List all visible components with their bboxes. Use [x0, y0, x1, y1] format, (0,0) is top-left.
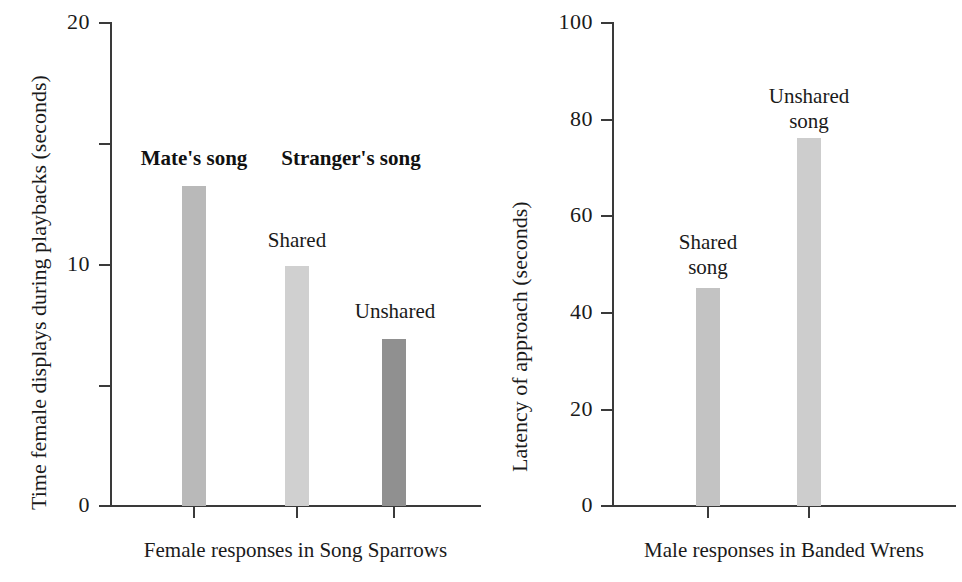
left-ytick-20	[99, 22, 110, 24]
left-bar-mates-song	[182, 186, 206, 506]
right-xtick-1	[707, 506, 709, 518]
right-ytick-0	[601, 505, 612, 507]
right-ytick-label-80: 80	[521, 108, 593, 130]
right-bar-label-unshared-song: Unshared song	[739, 84, 879, 134]
right-xtick-2	[808, 506, 810, 518]
right-ytick-label-100: 100	[521, 11, 593, 33]
right-ytick-label-0: 0	[521, 494, 593, 516]
right-bar-label-shared-song-line2: song	[648, 255, 768, 280]
left-bar-shared	[285, 266, 309, 506]
left-ytick-0	[99, 505, 110, 507]
left-ytick-15	[99, 143, 110, 145]
right-ytick-100	[601, 22, 612, 24]
left-group-label-mates-song: Mate's song	[114, 146, 274, 171]
left-bar-label-shared: Shared	[242, 228, 352, 253]
right-ytick-80	[601, 119, 612, 121]
figure-two-panel-bar-charts: 20 10 0 Time female displays during play…	[0, 0, 962, 582]
left-x-axis-title: Female responses in Song Sparrows	[110, 538, 481, 563]
right-bar-label-shared-song-line1: Shared	[648, 230, 768, 255]
right-y-axis-title: Latency of approach (seconds)	[507, 201, 533, 472]
right-y-axis-line	[612, 22, 614, 506]
panel-song-sparrows: 20 10 0 Time female displays during play…	[0, 0, 481, 582]
left-xtick-3	[393, 506, 395, 518]
left-group-label-strangers-song: Stranger's song	[261, 146, 441, 171]
left-ytick-label-20: 20	[30, 11, 90, 33]
left-bar-unshared	[382, 339, 406, 506]
left-y-axis-line	[110, 22, 112, 506]
right-x-axis-title: Male responses in Banded Wrens	[612, 538, 956, 563]
right-x-axis-line	[612, 505, 956, 507]
right-bar-label-unshared-song-line1: Unshared	[739, 84, 879, 109]
right-bar-unshared-song	[797, 138, 821, 506]
right-bar-label-unshared-song-line2: song	[739, 109, 879, 134]
right-ytick-20	[601, 409, 612, 411]
left-ytick-10	[99, 264, 110, 266]
panel-banded-wrens: 100 80 60 40 20 0 Latency of approach (s…	[481, 0, 962, 582]
right-bar-label-shared-song: Shared song	[648, 230, 768, 280]
left-y-axis-title: Time female displays during playbacks (s…	[26, 75, 52, 510]
right-ytick-60	[601, 215, 612, 217]
left-xtick-2	[296, 506, 298, 518]
right-bar-shared-song	[696, 288, 720, 506]
left-xtick-1	[193, 506, 195, 518]
left-bar-label-unshared: Unshared	[330, 299, 460, 324]
right-ytick-40	[601, 312, 612, 314]
left-ytick-5	[99, 385, 110, 387]
